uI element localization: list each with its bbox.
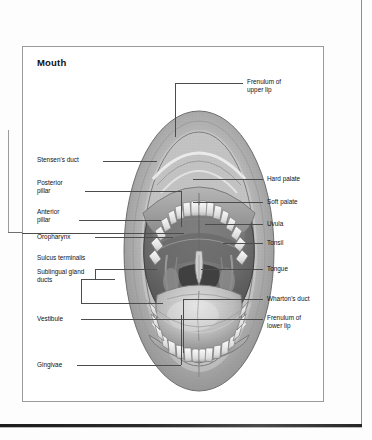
leader-hard-palate — [193, 179, 263, 180]
frame-escape-vertical — [8, 130, 9, 233]
label-posterior-pillar: Posterior pillar — [37, 179, 63, 196]
figure-title: Mouth — [37, 57, 67, 68]
label-anterior-pillar: Anterior pillar — [37, 208, 59, 225]
label-vestibule: Vestibule — [37, 315, 63, 323]
leader-sublingual-stem — [81, 279, 115, 280]
leader-whartons-duct-h — [183, 299, 263, 300]
leader-sublingual-prong-lower — [81, 303, 163, 304]
label-whartons-duct: Wharton's duct — [267, 295, 309, 303]
leader-uvula — [205, 224, 263, 225]
leader-frenulum-lower-lip — [173, 319, 263, 320]
label-uvula: Uvula — [267, 220, 283, 228]
leader-sublingual-prong-upper — [95, 269, 157, 270]
label-frenulum-lower-lip: Frenulum of lower lip — [267, 314, 301, 331]
leader-frenulum-upper-lip-h — [175, 83, 243, 84]
leader-posterior-pillar-h — [85, 191, 181, 192]
label-tonsil: Tonsil — [267, 239, 283, 247]
leader-anterior-pillar — [79, 220, 161, 221]
leader-vestibule — [81, 319, 181, 320]
label-stensens-duct: Stensen's duct — [37, 156, 79, 164]
label-tongue: Tongue — [267, 265, 288, 273]
page-edge-right — [361, 0, 362, 424]
leader-posterior-pillar-v — [181, 191, 182, 227]
leader-gingivae-v — [181, 315, 182, 365]
label-frenulum-upper-lip: Frenulum of upper lip — [247, 78, 281, 95]
leader-sublingual-bracket-v2 — [95, 269, 96, 279]
label-oropharynx: Oropharynx — [37, 233, 70, 241]
leader-gingivae-h — [77, 365, 181, 366]
figure-frame: Mouth — [22, 46, 324, 402]
mouth-illustration — [123, 109, 275, 394]
scanned-page: Mouth — [0, 0, 372, 440]
label-gingivae: Gingivae — [37, 361, 62, 369]
leader-oropharynx — [95, 237, 173, 238]
page-edge-bottom-shadow — [0, 427, 362, 428]
leader-tongue — [201, 269, 263, 270]
label-soft-palate: Soft palate — [267, 198, 298, 206]
leader-tonsil — [223, 243, 263, 244]
leader-frenulum-upper-lip-v — [175, 83, 176, 137]
leader-stensens-duct — [103, 161, 157, 162]
label-sulcus-terminalis: Sulcus terminalis — [37, 254, 85, 262]
label-sublingual-gland-ducts: Sublingual gland ducts — [37, 268, 84, 285]
leader-soft-palate — [193, 202, 263, 203]
label-hard-palate: Hard palate — [267, 175, 300, 183]
leader-whartons-duct-v — [183, 299, 184, 353]
